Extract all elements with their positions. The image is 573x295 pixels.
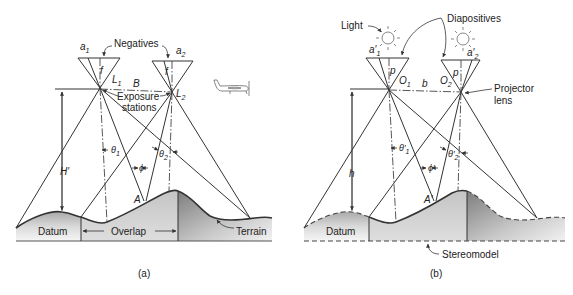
label-p-right: p: [452, 67, 459, 78]
label-overlap: Overlap: [111, 226, 146, 237]
airplane-icon: [214, 80, 249, 96]
label-exposure: Exposure: [117, 91, 160, 102]
caption-b: (b): [430, 268, 442, 279]
label-A: A: [133, 194, 141, 205]
label-O2: O2: [440, 75, 452, 88]
label-datum-a: Datum: [38, 226, 67, 237]
panel-b: Light Diapositives a′1 a′2 p p O1 b O2 P…: [304, 13, 568, 279]
label-phi: ϕ: [139, 163, 144, 173]
label-projector: Projector: [494, 83, 535, 94]
label-lens: lens: [494, 95, 512, 106]
negative-2: [152, 61, 193, 92]
label-h: h: [349, 168, 355, 179]
label-phi-prime: ϕ′: [428, 163, 435, 173]
label-p-left: p: [389, 65, 396, 76]
label-B: B: [133, 78, 140, 89]
caption-a: (a): [138, 268, 150, 279]
label-O1: O1: [399, 75, 411, 88]
label-theta1-prime: θ′1: [399, 143, 410, 155]
label-light: Light: [341, 20, 363, 31]
stereomodel-fill: [369, 190, 467, 241]
label-stereomodel: Stereomodel: [442, 249, 499, 260]
light-source-icon-1: [376, 26, 400, 50]
terrain-right-fill-b: [467, 191, 565, 241]
label-L2: L2: [176, 88, 186, 101]
label-a1: a1: [80, 41, 90, 54]
label-theta2: θ2: [159, 149, 168, 161]
label-L1: L1: [112, 74, 122, 87]
label-terrain: Terrain: [236, 226, 267, 237]
label-a1-prime: a′1: [369, 44, 380, 57]
label-f-right: f: [165, 66, 169, 77]
label-b: b: [422, 78, 428, 89]
label-datum-b: Datum: [326, 226, 355, 237]
label-diapositives: Diapositives: [447, 13, 501, 24]
label-f-left: f: [100, 65, 104, 76]
label-A-prime: A′: [423, 194, 434, 205]
panel-a: a1 Negatives a2 f f L1 B L2 Exposure sta…: [16, 38, 272, 279]
stereo-photogrammetry-figure: a1 Negatives a2 f f L1 B L2 Exposure sta…: [0, 0, 573, 295]
label-theta2-prime: θ′2: [448, 149, 459, 161]
label-H-prime: H′: [60, 166, 70, 177]
label-a2: a2: [176, 45, 186, 58]
label-theta1: θ1: [111, 145, 120, 157]
label-negatives: Negatives: [114, 38, 158, 49]
label-a2-prime: a′2: [467, 47, 478, 60]
label-stations: stations: [122, 102, 156, 113]
